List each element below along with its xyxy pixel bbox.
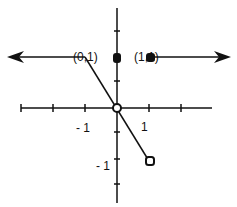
x-tick-label-neg1: - 1 xyxy=(76,121,90,135)
filled-point-0-1 xyxy=(113,53,121,63)
y-tick-label-neg1: - 1 xyxy=(96,159,110,173)
point-label-1-1: (1,1) xyxy=(134,50,159,64)
function-graph: (0,1) (1,1) - 1 1 - 1 xyxy=(0,0,237,207)
point-label-0-1: (0,1) xyxy=(73,50,98,64)
right-ray xyxy=(150,51,231,63)
x-tick-label-pos1: 1 xyxy=(141,120,148,134)
open-point-origin xyxy=(113,104,121,112)
open-point-1-neg1 xyxy=(146,157,154,165)
graph-canvas: (0,1) (1,1) - 1 1 - 1 xyxy=(0,0,237,207)
